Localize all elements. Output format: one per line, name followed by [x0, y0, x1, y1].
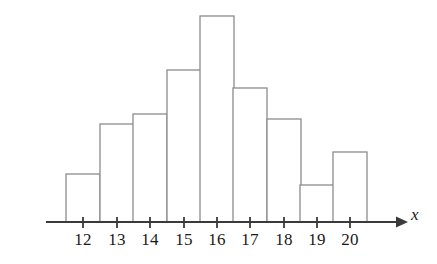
- histogram-bar: [333, 152, 367, 222]
- histogram-bar: [200, 16, 234, 222]
- histogram-bar: [167, 70, 201, 222]
- histogram-bar: [100, 124, 134, 222]
- x-axis-tick-label: 20: [330, 230, 370, 250]
- bars-group: [66, 16, 367, 222]
- x-axis-arrowhead: [396, 217, 408, 228]
- histogram-figure: 121314151617181920 x: [0, 0, 437, 264]
- histogram-bar: [66, 174, 100, 222]
- histogram-plot: [0, 0, 437, 264]
- histogram-bar: [300, 185, 334, 222]
- histogram-bar: [267, 119, 301, 222]
- x-axis-label: x: [411, 206, 419, 224]
- histogram-bar: [233, 88, 267, 222]
- histogram-bar: [133, 114, 167, 222]
